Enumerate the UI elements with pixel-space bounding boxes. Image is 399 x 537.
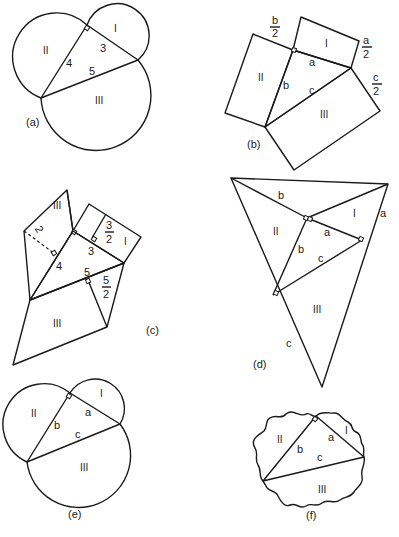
caption-a: (a) [26,116,39,128]
side-label-a: a [309,56,316,68]
figure-a: I II III 3 4 5 (a) [13,4,151,151]
right-angle-mark [85,278,90,283]
height-2-dashed [24,231,55,254]
region-label-iii: III [80,462,88,473]
side-a [307,218,362,240]
edge [67,190,73,231]
right-angle-mark [51,250,57,256]
triangle-ii [24,190,73,300]
three-half-numerator: 3 [106,219,112,231]
right-triangle [265,50,351,127]
half-b-denominator: 2 [272,27,278,39]
five-half-denominator: 2 [103,288,109,300]
side-label-4: 4 [66,57,72,69]
five-half-numerator: 5 [103,274,109,286]
region-label-i: I [345,425,348,436]
caption-d: (d) [253,358,266,370]
region-label-i: I [353,208,356,219]
wavy-boundary-iii [263,457,364,507]
half-c-numerator: c [373,71,379,83]
right-triangle [263,416,364,481]
region-label-i: I [325,38,328,49]
outer-label-a: a [380,207,387,219]
pythagorean-figures: I II III 3 4 5 (a) I II III a b c b 2 a … [0,0,399,537]
outer-b-segment [231,178,307,218]
side-c [273,240,362,295]
side-label-c: c [75,428,81,440]
region-label-iii: III [95,95,103,106]
outer-triangle [231,178,388,387]
figure-b: I II III a b c b 2 a 2 c 2 (b) [225,14,382,170]
region-label-ii: III [53,200,61,211]
side-label-b: b [283,79,289,91]
three-half-denominator: 2 [106,233,112,245]
half-a-denominator: 2 [363,48,369,60]
caption-c: (c) [146,324,159,336]
half-c-denominator: 2 [373,85,379,97]
right-angle-mark [358,236,363,241]
side-label-b: b [297,443,303,455]
figure-e: I II III a b c (e) [3,379,131,520]
region-label-ii: II [43,45,49,56]
outer-label-c: c [286,337,292,349]
caption-e: (e) [68,508,81,520]
side-label-c: c [317,451,323,463]
side-label-b: b [298,243,304,255]
region-label-iii: III [313,304,321,315]
region-label-ii: II [258,72,264,83]
region-label-i: I [124,236,127,247]
height-label-2: 2 [33,224,46,235]
region-label-iii: III [53,318,61,329]
half-a-numerator: a [363,34,370,46]
figure-f: I II III a b c (f) [253,412,364,521]
side-label-5: 5 [89,65,95,77]
side-label-a: a [324,226,331,238]
region-label-ii: II [277,434,283,445]
side-label-5: 5 [84,266,90,278]
rect-i-divider [92,214,106,238]
right-triangle [41,25,138,98]
side-label-c: c [309,84,315,96]
side-label-a: a [85,406,92,418]
half-b-numerator: b [272,14,278,26]
right-triangle [27,393,120,462]
side-label-4: 4 [56,260,62,272]
right-angle-mark [273,290,278,295]
side-label-c: c [318,252,324,264]
region-label-i: I [100,388,103,399]
outer-segment [307,184,388,218]
semicircle-i [70,379,124,424]
region-label-ii: II [31,408,37,419]
right-angle-mark [292,48,297,53]
figure-c: III I III 3 4 5 2 3 2 5 2 (c) [13,190,159,365]
right-angle-mark [307,216,312,221]
outer-label-b: b [278,189,284,201]
side-label-3: 3 [100,42,106,54]
region-label-iii: III [318,484,326,495]
region-label-i: I [114,23,117,34]
region-label-ii: II [273,226,279,237]
figure-d: I II III a b c b a c (d) [231,178,388,387]
side-label-3: 3 [88,245,94,257]
side-label-a: a [328,431,335,443]
caption-f: (f) [306,509,316,521]
side-label-b: b [54,419,60,431]
caption-b: (b) [247,138,260,150]
region-label-iii: III [320,109,328,120]
